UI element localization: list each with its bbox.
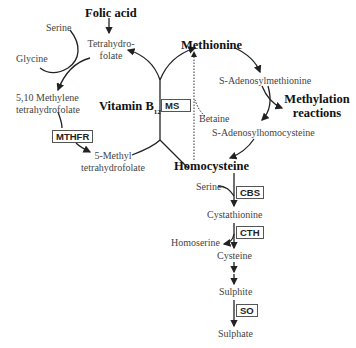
methylene-thf-label: 5,10 Methylene tetrahydrofolate [16, 92, 80, 116]
ms-to-methionine-arrow [160, 48, 195, 80]
enzyme-so: SO [236, 304, 258, 317]
vitamin-b12-text: Vitamin B [99, 99, 154, 113]
methyl-thf-line2: tetrahydrofolate [81, 162, 145, 173]
methylation-line2: reactions [293, 106, 341, 120]
serine-glycine-curve [40, 30, 78, 73]
homocysteine-label: Homocysteine [174, 159, 249, 173]
homoserine-output-arrow [224, 234, 234, 244]
glycine-label: Glycine [16, 53, 48, 65]
folic-acid-label: Folic acid [85, 6, 137, 20]
sah-to-homocysteine-arrow [230, 139, 254, 158]
sam-label: S-Adenosylmethionine [219, 75, 311, 87]
vitamin-b12-subscript: 12 [154, 108, 161, 116]
methylation-line1: Methylation [284, 92, 349, 106]
methyl-thf-label: 5-Methyl tetrahydrofolate [78, 150, 148, 174]
pathway-arrows [0, 0, 356, 348]
sulphite-label: Sulphite [219, 286, 252, 298]
vitamin-b12-label: Vitamin B12 [99, 99, 161, 119]
homoserine-label: Homoserine [171, 237, 220, 249]
methylene-thf-line2: tetrahydrofolate [16, 104, 80, 115]
sam-to-sah-arrow [262, 86, 270, 120]
sam-to-methylation-arrow [262, 86, 282, 108]
cystathionine-label: Cystathionine [207, 209, 263, 221]
sah-label: S-Adenosylhomocysteine [212, 127, 315, 139]
serine-label: Serine [46, 22, 72, 34]
tetrahydrofolate-label: Tetrahydro- folate [86, 38, 136, 62]
enzyme-cbs: CBS [236, 186, 264, 199]
methyl-thf-line1: 5-Methyl [94, 150, 131, 161]
enzyme-cth: CTH [236, 226, 264, 239]
methionine-label: Methionine [181, 38, 242, 52]
methylation-reactions-label: Methylation reactions [282, 92, 352, 120]
tetrahydrofolate-line1: Tetrahydro- [87, 38, 134, 49]
tetrahydrofolate-line2: folate [100, 50, 123, 61]
enzyme-mthfr: MTHFR [52, 130, 93, 143]
sulphate-label: Sulphate [218, 328, 253, 340]
enzyme-ms: MS [161, 99, 191, 112]
methylene-thf-line1: 5,10 Methylene [16, 92, 79, 103]
serine-cbs-label: Serine [196, 181, 222, 193]
betaine-label: Betaine [199, 113, 230, 125]
cysteine-label: Cysteine [217, 250, 252, 262]
